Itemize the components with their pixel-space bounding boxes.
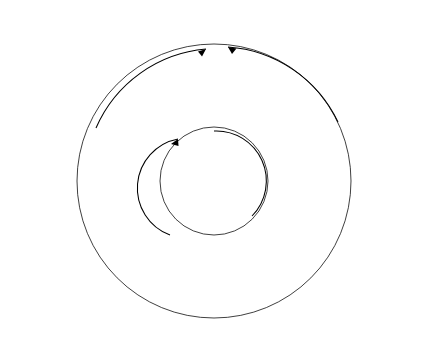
inner-flow-arrow-2 [214, 131, 266, 216]
outer-flow-arrow-right [228, 47, 338, 122]
outer-boundary-circle [77, 44, 351, 318]
inner-flow-arrow [137, 139, 178, 235]
radial-diagram-figure [0, 0, 448, 362]
diagram-svg [0, 0, 448, 362]
